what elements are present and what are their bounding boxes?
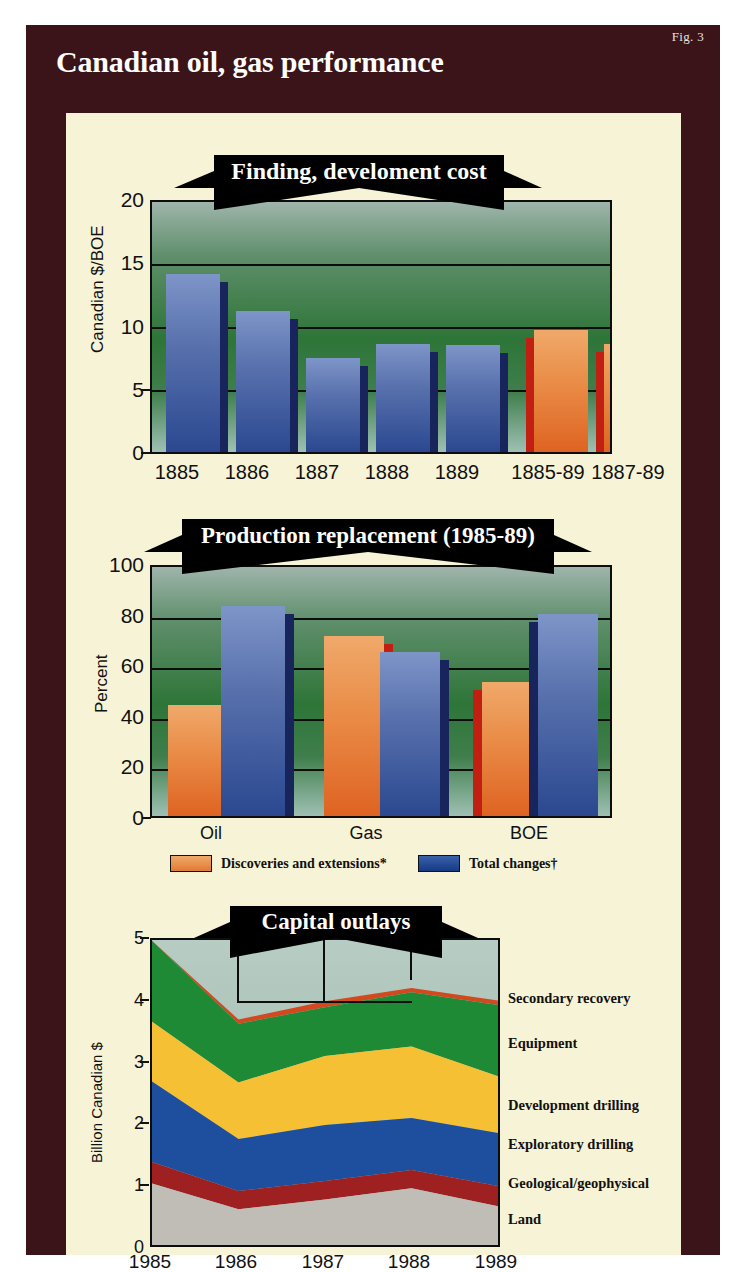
bar-1886-face xyxy=(236,311,290,452)
bar-1887-89-side xyxy=(596,352,604,452)
chart3-y-axis-title: Billion Canadian $ xyxy=(88,1042,105,1163)
chart2-ytick-40: 40 xyxy=(92,705,144,729)
chart1-xtick-1885: 1885 xyxy=(142,461,212,484)
chart3-xtick-1985: 1985 xyxy=(116,1251,184,1272)
bar-oil-total-side xyxy=(285,614,294,816)
chart1-ytick-20: 20 xyxy=(102,188,144,212)
chart1-title-text: Finding, develoment cost xyxy=(231,158,486,185)
bar-1885-89 xyxy=(534,330,588,452)
chart2-title-banner: Production replacement (1985-89) xyxy=(182,519,554,552)
chart1-xtick-1886: 1886 xyxy=(212,461,282,484)
series-label-land: Land xyxy=(508,1211,541,1228)
chart2-ytick-20: 20 xyxy=(92,755,144,779)
chart1-xtick-1889: 1889 xyxy=(422,461,492,484)
chart3-ytickmark-4 xyxy=(140,999,149,1001)
bar-1885-89-face xyxy=(534,330,588,452)
chart1-ytickmark-5 xyxy=(141,389,150,391)
chart2-ytick-80: 80 xyxy=(92,604,144,628)
legend-swatch-discoveries xyxy=(170,855,212,872)
bar-gas-discoveries xyxy=(324,636,384,816)
bar-gas-total xyxy=(380,652,440,816)
legend-label-total: Total changes† xyxy=(469,856,558,872)
chart3-ytickmark-1 xyxy=(140,1184,149,1186)
bar-1889-side xyxy=(500,353,508,452)
chart3-xtick-1987: 1987 xyxy=(289,1251,357,1272)
chart1-banner-tail-left xyxy=(174,171,214,188)
bar-1887 xyxy=(306,358,360,452)
chart3-banner-tail-right xyxy=(442,922,478,938)
bar-1889-face xyxy=(446,345,500,452)
bar-1888-face xyxy=(376,344,430,452)
chart3-xtick-1989: 1989 xyxy=(462,1251,530,1272)
bar-boe-total-side xyxy=(529,622,538,816)
chart1-xtick-1888: 1888 xyxy=(352,461,422,484)
chart3-ytick-5: 5 xyxy=(106,928,144,949)
chart3-banner-notch xyxy=(230,938,442,958)
chart2-banner-notch xyxy=(182,552,554,574)
chart3-ytick-4: 4 xyxy=(106,990,144,1011)
chart3-title-banner: Capital outlays xyxy=(230,906,442,938)
chart3-stacked-area-svg xyxy=(152,940,498,1245)
bar-1887-89 xyxy=(604,344,612,452)
chart1-ytick-5: 5 xyxy=(102,378,144,402)
bar-1887-89-face xyxy=(604,344,612,452)
chart1-plot-area xyxy=(150,200,612,454)
chart3-xtick-1988: 1988 xyxy=(375,1251,443,1272)
legend-label-discoveries: Discoveries and extensions* xyxy=(221,856,387,872)
bar-1888 xyxy=(376,344,430,452)
bar-1885-side xyxy=(220,282,228,452)
figure-number: Fig. 3 xyxy=(672,29,704,45)
chart2-ytick-0: 0 xyxy=(92,806,144,830)
bar-oil-total xyxy=(221,606,285,816)
bar-1885-89-side xyxy=(526,338,534,452)
bar-1887-face xyxy=(306,358,360,452)
chart2-ytick-60: 60 xyxy=(92,654,144,678)
chart2-ytick-100: 100 xyxy=(92,553,144,577)
chart2-xtick-boe: BOE xyxy=(484,823,574,844)
chart2-legend-item-total: Total changes† xyxy=(418,855,558,872)
chart3-ytick-1: 1 xyxy=(106,1175,144,1196)
figure-header: Fig. 3 Canadian oil, gas performance xyxy=(26,25,720,95)
chart1-ytick-0: 0 xyxy=(102,441,144,465)
chart3-title-text: Capital outlays xyxy=(262,909,411,935)
figure-body-panel: Finding, develoment cost Canadian $/BOE … xyxy=(66,113,681,1255)
chart1-banner-notch xyxy=(214,188,504,210)
series-label-exploratory-drilling: Exploratory drilling xyxy=(508,1136,633,1153)
figure-title: Canadian oil, gas performance xyxy=(56,45,444,79)
series-label-equipment: Equipment xyxy=(508,1035,577,1052)
chart2-title-text: Production replacement (1985-89) xyxy=(201,523,535,549)
chart2-banner-tail-left xyxy=(144,535,182,552)
chart3-ytickmark-5 xyxy=(140,937,149,939)
bar-boe-total xyxy=(538,614,598,816)
chart3-banner-tail-left xyxy=(194,922,230,938)
chart3-xtick-1986: 1986 xyxy=(202,1251,270,1272)
chart1-title-banner: Finding, develoment cost xyxy=(214,155,504,188)
bar-boe-total-face xyxy=(538,614,598,816)
bar-1888-side xyxy=(430,352,438,452)
bar-oil-discoveries-face xyxy=(168,705,228,816)
chart1-banner-tail-right xyxy=(504,171,542,188)
chart3-ytick-2: 2 xyxy=(106,1113,144,1134)
bar-oil-discoveries xyxy=(168,705,228,816)
bar-gas-total-face xyxy=(380,652,440,816)
chart1-gridline-15 xyxy=(152,264,610,266)
chart2-plot-area xyxy=(150,565,612,818)
bar-boe-discoveries-side xyxy=(473,690,482,816)
chart1-xtick-1885-89: 1885-89 xyxy=(504,461,592,484)
chart3-ytickmark-2 xyxy=(140,1122,149,1124)
bar-1885-face xyxy=(166,274,220,452)
chart1-ytick-10: 10 xyxy=(102,315,144,339)
chart1-xtick-1887-89: 1887-89 xyxy=(584,461,672,484)
bar-gas-total-side xyxy=(440,660,449,816)
bar-gas-discoveries-face xyxy=(324,636,384,816)
series-label-secondary-recovery: Secondary recovery xyxy=(508,990,631,1007)
bar-1889 xyxy=(446,345,500,452)
chart3-plot-area xyxy=(150,938,500,1247)
series-label-geological-geophysical: Geological/geophysical xyxy=(508,1175,649,1192)
series-label-development-drilling: Development drilling xyxy=(508,1097,639,1114)
bar-1887-side xyxy=(360,366,368,452)
chart1-ytick-15: 15 xyxy=(102,251,144,275)
chart2-legend-item-discoveries: Discoveries and extensions* xyxy=(170,855,387,872)
chart2-xtick-gas: Gas xyxy=(321,823,411,844)
